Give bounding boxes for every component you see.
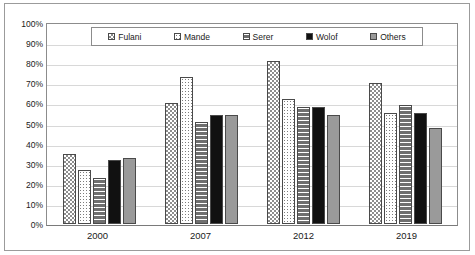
legend-label: Wolof xyxy=(316,32,338,42)
y-axis-tick-label: 90% xyxy=(7,40,43,49)
y-axis-tick-label: 30% xyxy=(7,160,43,169)
bar-others-2007[interactable] xyxy=(225,115,238,224)
y-axis-tick-label: 100% xyxy=(7,20,43,29)
bar-group-2019 xyxy=(354,25,456,224)
x-axis-tick-label: 2012 xyxy=(252,230,355,250)
y-axis-tick-label: 80% xyxy=(7,60,43,69)
legend-label: Mande xyxy=(184,32,210,42)
y-axis: 100%90%80%70%60%50%40%30%20%10%0% xyxy=(5,23,43,226)
bar-group-2000 xyxy=(48,25,150,224)
legend-swatch-fulani-icon xyxy=(108,33,115,40)
y-axis-tick-label: 50% xyxy=(7,120,43,129)
legend-label: Others xyxy=(380,32,406,42)
bar-others-2019[interactable] xyxy=(429,128,442,224)
plot-area xyxy=(46,23,458,226)
bar-fulani-2012[interactable] xyxy=(267,61,280,224)
x-axis-tick-label: 2019 xyxy=(355,230,458,250)
bar-serer-2019[interactable] xyxy=(399,105,412,224)
legend-swatch-mande-icon xyxy=(174,33,181,40)
legend-label: Serer xyxy=(253,32,274,42)
legend-item-wolof[interactable]: Wolof xyxy=(306,32,338,42)
bar-groups xyxy=(48,25,456,224)
bar-wolof-2000[interactable] xyxy=(108,160,121,224)
chart-container: 100%90%80%70%60%50%40%30%20%10%0% Fulani… xyxy=(4,3,470,251)
bar-fulani-2000[interactable] xyxy=(63,154,76,224)
bar-others-2000[interactable] xyxy=(123,158,136,224)
bar-mande-2012[interactable] xyxy=(282,99,295,224)
bar-wolof-2007[interactable] xyxy=(210,115,223,224)
legend-item-fulani[interactable]: Fulani xyxy=(108,32,141,42)
x-axis: 2000200720122019 xyxy=(46,230,458,250)
y-axis-tick-label: 40% xyxy=(7,140,43,149)
bar-serer-2012[interactable] xyxy=(297,107,310,224)
legend-item-others[interactable]: Others xyxy=(370,32,406,42)
y-axis-tick-label: 60% xyxy=(7,100,43,109)
chart-legend: FulaniMandeSererWolofOthers xyxy=(91,27,423,46)
y-axis-tick-label: 70% xyxy=(7,80,43,89)
bar-serer-2000[interactable] xyxy=(93,178,106,224)
legend-item-mande[interactable]: Mande xyxy=(174,32,210,42)
bar-fulani-2019[interactable] xyxy=(369,83,382,224)
legend-item-serer[interactable]: Serer xyxy=(243,32,274,42)
y-axis-tick-label: 0% xyxy=(7,221,43,230)
bar-mande-2019[interactable] xyxy=(384,113,397,224)
bar-wolof-2019[interactable] xyxy=(414,113,427,224)
legend-swatch-serer-icon xyxy=(243,33,250,40)
x-axis-tick-label: 2007 xyxy=(149,230,252,250)
bar-wolof-2012[interactable] xyxy=(312,107,325,224)
bar-mande-2007[interactable] xyxy=(180,77,193,224)
legend-label: Fulani xyxy=(118,32,141,42)
y-axis-tick-label: 10% xyxy=(7,201,43,210)
bar-mande-2000[interactable] xyxy=(78,170,91,224)
legend-swatch-wolof-icon xyxy=(306,33,313,40)
bar-group-2007 xyxy=(150,25,252,224)
bar-group-2012 xyxy=(252,25,354,224)
x-axis-tick-label: 2000 xyxy=(46,230,149,250)
y-axis-tick-label: 20% xyxy=(7,181,43,190)
legend-swatch-others-icon xyxy=(370,33,377,40)
bar-others-2012[interactable] xyxy=(327,115,340,224)
bar-serer-2007[interactable] xyxy=(195,122,208,225)
bar-fulani-2007[interactable] xyxy=(165,103,178,224)
